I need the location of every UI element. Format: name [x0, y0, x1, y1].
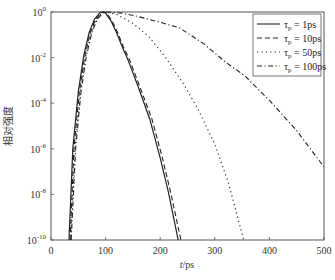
line-chart: 0100200300400500 10010-210-410-610-810-1… [0, 0, 335, 280]
y-axis-title: 相对强度 [2, 106, 14, 146]
legend: τp = 1psτp = 10psτp = 50psτp = 100ps [253, 14, 326, 76]
y-tick-label: 10-10 [27, 233, 47, 246]
y-tick-label: 10-2 [30, 51, 46, 64]
y-tick-label: 10-4 [30, 96, 46, 109]
x-tick-label: 0 [49, 245, 54, 256]
x-axis-title: t/ps [180, 259, 195, 270]
x-tick-label: 300 [207, 245, 222, 256]
x-tick-label: 400 [262, 245, 277, 256]
y-axis: 10010-210-410-610-810-10 [27, 5, 54, 246]
x-tick-label: 500 [317, 245, 332, 256]
x-tick-label: 200 [153, 245, 168, 256]
y-tick-label: 10-8 [30, 187, 46, 200]
y-tick-label: 10-6 [30, 142, 46, 155]
y-tick-label: 100 [33, 5, 47, 18]
x-axis-title-unit: /ps [183, 259, 195, 270]
x-tick-label: 100 [98, 245, 113, 256]
